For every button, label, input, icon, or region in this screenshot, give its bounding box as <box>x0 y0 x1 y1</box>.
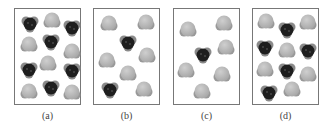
dark-molecule-icon <box>42 79 60 97</box>
panel-label-c: (c) <box>173 110 240 121</box>
dark-molecule-icon <box>21 15 39 33</box>
panel-label-b: (b) <box>93 110 160 121</box>
light-molecule-icon <box>138 47 156 65</box>
light-molecule-icon <box>257 13 275 31</box>
light-molecule-icon <box>179 21 197 39</box>
light-molecule-icon <box>215 15 233 33</box>
light-molecule-icon <box>100 15 118 33</box>
light-molecule-icon <box>299 66 317 84</box>
light-molecule-icon <box>299 14 317 32</box>
light-molecule-icon <box>217 39 235 57</box>
light-molecule-icon <box>256 61 274 79</box>
dark-molecule-icon <box>278 62 296 80</box>
light-molecule-icon <box>278 42 296 60</box>
panel-b <box>93 8 160 105</box>
light-molecule-icon <box>135 81 153 99</box>
dark-molecule-icon <box>63 62 81 80</box>
dark-molecule-icon <box>194 46 212 64</box>
panel-label-d: (d) <box>252 110 319 121</box>
panel-c <box>173 8 240 105</box>
light-molecule-icon <box>213 66 231 84</box>
light-molecule-icon <box>177 62 195 80</box>
dark-molecule-icon <box>63 19 81 37</box>
light-molecule-icon <box>39 55 57 73</box>
dark-molecule-icon <box>119 34 137 52</box>
light-molecule-icon <box>20 36 38 54</box>
dark-molecule-icon <box>42 33 60 51</box>
light-molecule-icon <box>63 84 81 102</box>
light-molecule-icon <box>63 43 81 61</box>
panel-label-a: (a) <box>14 110 81 121</box>
dark-molecule-icon <box>101 81 119 99</box>
dark-molecule-icon <box>278 21 296 39</box>
light-molecule-icon <box>283 81 301 99</box>
light-molecule-icon <box>98 52 116 70</box>
light-molecule-icon <box>20 83 38 101</box>
panel-a <box>14 8 81 105</box>
dark-molecule-icon <box>20 61 38 79</box>
light-molecule-icon <box>137 14 155 32</box>
dark-molecule-icon <box>299 42 317 60</box>
light-molecule-icon <box>193 83 211 101</box>
dark-molecule-icon <box>260 84 278 102</box>
panel-d <box>252 8 319 105</box>
dark-molecule-icon <box>256 39 274 57</box>
light-molecule-icon <box>43 12 61 30</box>
